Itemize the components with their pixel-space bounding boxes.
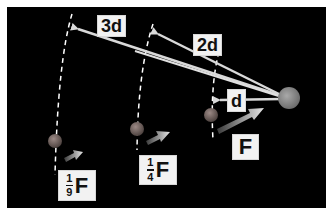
force-label-quarter-f-symbol: F [156,159,169,181]
distance-label-d: d [227,89,246,112]
small-mass-sphere-3d [48,134,62,148]
small-mass-sphere-2d [130,122,144,136]
force-label-ninth-f: 1 9 F [58,170,96,201]
distance-label-3d: 3d [97,15,126,37]
fraction-one-ninth: 1 9 [66,173,73,199]
distance-label-2d-text: 2d [197,36,218,54]
force-label-quarter-f: 1 4 F [139,155,177,185]
force-label-f-symbol: F [239,136,252,158]
distance-label-d-text: d [231,92,242,110]
small-mass-sphere-d [204,108,218,122]
distance-label-2d: 2d [193,34,222,56]
force-label-ninth-f-symbol: F [75,175,88,197]
distance-label-3d-text: 3d [101,17,122,35]
force-label-f: F [232,134,259,160]
fraction-one-quarter: 1 4 [147,157,154,183]
large-mass-sphere [278,87,300,109]
